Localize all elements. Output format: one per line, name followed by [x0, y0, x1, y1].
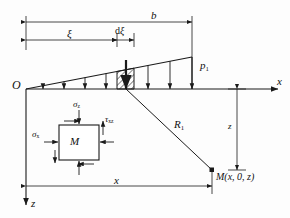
- load-strip-hatched: [117, 60, 134, 89]
- label-xi: ξ: [67, 28, 72, 39]
- load-triangle: [26, 57, 192, 89]
- label-element-M: M: [70, 136, 79, 147]
- label-dxi-xi: ξ: [120, 25, 124, 36]
- dimension-line-x: [26, 170, 212, 194]
- label-dxi: dξ: [115, 26, 124, 36]
- label-sigma-x: σx: [32, 130, 39, 140]
- label-sigma-z: σz: [73, 100, 80, 110]
- figure-canvas: b ξ dξ p1 O x z R1 z x M(x, 0, z) M σz σ…: [0, 0, 290, 218]
- radius-line-R1: [126, 89, 214, 172]
- dimension-line-b: [26, 16, 192, 57]
- label-x-dim: x: [114, 175, 119, 186]
- label-tau-xz: τxz: [105, 115, 114, 125]
- label-origin-O: O: [12, 79, 21, 91]
- label-R1: R1: [174, 119, 184, 131]
- label-b: b: [151, 10, 157, 21]
- label-point-M: M(x, 0, z): [216, 172, 254, 182]
- label-axis-x: x: [277, 76, 282, 87]
- label-axis-z: z: [31, 198, 35, 209]
- diagram-svg: [0, 0, 290, 218]
- label-z-depth: z: [228, 122, 232, 131]
- label-p1: p1: [200, 60, 209, 72]
